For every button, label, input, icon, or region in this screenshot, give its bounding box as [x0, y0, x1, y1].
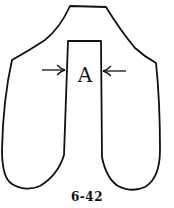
left-arrow-icon	[42, 65, 65, 75]
pattern-diagram: A	[0, 0, 174, 208]
figure-caption: 6-42	[0, 190, 174, 204]
section-label: A	[77, 63, 93, 87]
pattern-outline	[2, 6, 160, 190]
right-arrow-icon	[103, 66, 126, 76]
